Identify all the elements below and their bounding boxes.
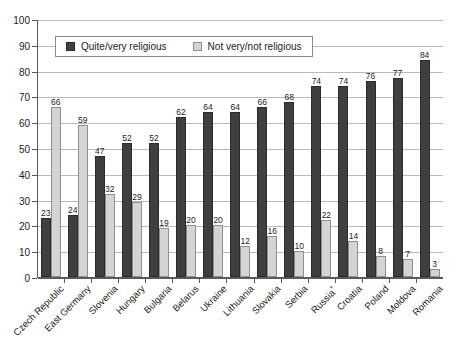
- y-axis-tick-label: 50: [0, 144, 30, 155]
- bar-value-label: 76: [366, 71, 375, 81]
- bar-value-label: 19: [159, 218, 168, 228]
- bar: 68: [284, 102, 294, 277]
- bar-group: 777: [390, 20, 417, 277]
- bar-value-label: 24: [68, 205, 77, 215]
- bar-value-label: 66: [258, 97, 267, 107]
- y-axis-tick-mark: [32, 201, 37, 202]
- bar: 22: [321, 220, 331, 277]
- bar-value-label: 64: [230, 102, 239, 112]
- chart-legend: Quite/very religious Not very/not religi…: [55, 36, 313, 57]
- y-axis-tick-label: 90: [0, 40, 30, 51]
- bar-value-label: 16: [268, 226, 277, 236]
- y-axis-tick-mark: [32, 123, 37, 124]
- bar-value-label: 66: [51, 97, 60, 107]
- x-axis-tick-mark: [416, 278, 417, 283]
- bar-value-label: 74: [312, 76, 321, 86]
- y-axis-tick-mark: [32, 97, 37, 98]
- gridline: [38, 278, 443, 279]
- bar-group: 6810: [282, 20, 309, 277]
- y-axis-tick-mark: [32, 46, 37, 47]
- x-axis-tick-mark: [308, 278, 309, 283]
- y-axis-tick-label: 10: [0, 247, 30, 258]
- y-axis-tick-label: 40: [0, 169, 30, 180]
- x-axis-category-label: Russia*: [306, 283, 338, 315]
- x-axis-tick-mark: [362, 278, 363, 283]
- y-axis-tick-mark: [32, 175, 37, 176]
- bar-group: 4732: [92, 20, 119, 277]
- bar: 20: [186, 225, 196, 277]
- x-axis-tick-mark: [145, 278, 146, 283]
- y-axis-tick-label: 0: [0, 273, 30, 284]
- bar: 47: [95, 156, 105, 277]
- bar: 66: [51, 107, 61, 277]
- bar-value-label: 59: [78, 115, 87, 125]
- x-axis-tick-mark: [335, 278, 336, 283]
- bar-group: 2459: [65, 20, 92, 277]
- bar-group: 768: [363, 20, 390, 277]
- bar-group: 6220: [173, 20, 200, 277]
- bar-value-label: 23: [41, 208, 50, 218]
- bar: 64: [230, 112, 240, 277]
- bar-value-label: 3: [432, 259, 437, 269]
- y-axis-tick-mark: [32, 278, 37, 279]
- bar-value-label: 47: [95, 146, 104, 156]
- bar-value-label: 64: [203, 102, 212, 112]
- y-axis-tick-mark: [32, 226, 37, 227]
- bar: 8: [376, 256, 386, 277]
- y-axis-tick-label: 70: [0, 92, 30, 103]
- bar-group: 7414: [336, 20, 363, 277]
- bar: 59: [78, 125, 88, 277]
- bar-value-label: 20: [186, 215, 195, 225]
- x-axis-category-label: Slovenia: [86, 283, 120, 317]
- bar: 62: [176, 117, 186, 277]
- bar: 32: [105, 194, 115, 277]
- bar: 7: [403, 259, 413, 277]
- y-axis-tick-label: 80: [0, 66, 30, 77]
- bar-value-label: 12: [240, 236, 249, 246]
- grouped-bar-chart: 2366245947325229521962206420641266166810…: [0, 0, 455, 361]
- bar-value-label: 10: [295, 241, 304, 251]
- x-axis-category-label: Bulgaria: [142, 283, 174, 315]
- legend-item-not-very-not-religious: Not very/not religious: [193, 41, 302, 52]
- bar: 74: [338, 86, 348, 277]
- bar: 52: [149, 143, 159, 277]
- bar: 20: [213, 225, 223, 277]
- dark-square-icon: [66, 42, 75, 51]
- bar-group: 5229: [119, 20, 146, 277]
- bar: 84: [420, 60, 430, 277]
- bar-value-label: 74: [339, 76, 348, 86]
- bar: 23: [41, 218, 51, 277]
- y-axis-tick-mark: [32, 149, 37, 150]
- x-axis-category-label: Serbia: [282, 283, 309, 310]
- bar: 29: [132, 202, 142, 277]
- y-axis-tick-mark: [32, 20, 37, 21]
- bar-value-label: 84: [420, 50, 429, 60]
- bar: 19: [159, 228, 169, 277]
- bar-value-label: 14: [349, 231, 358, 241]
- bar-value-label: 62: [176, 107, 185, 117]
- legend-item-quite-very-religious: Quite/very religious: [66, 41, 167, 52]
- x-axis-category-label: Hungary: [114, 283, 147, 316]
- x-axis-tick-mark: [64, 278, 65, 283]
- y-axis-tick-label: 100: [0, 15, 30, 26]
- bar-value-label: 68: [285, 92, 294, 102]
- bar: 76: [366, 81, 376, 277]
- x-axis-tick-mark: [389, 278, 390, 283]
- bar: 52: [122, 143, 132, 277]
- bar: 77: [393, 78, 403, 277]
- y-axis-tick-label: 30: [0, 195, 30, 206]
- x-axis-category-label: Croatia: [334, 283, 363, 312]
- x-axis-tick-mark: [118, 278, 119, 283]
- bar: 64: [203, 112, 213, 277]
- bar: 14: [348, 241, 358, 277]
- bar-value-label: 7: [405, 249, 410, 259]
- y-axis-tick-mark: [32, 252, 37, 253]
- light-square-icon: [193, 42, 202, 51]
- bar-group: 6412: [227, 20, 254, 277]
- x-axis-tick-mark: [281, 278, 282, 283]
- x-axis-tick-mark: [172, 278, 173, 283]
- bar-group: 6616: [255, 20, 282, 277]
- x-axis-tick-mark: [254, 278, 255, 283]
- bar-value-label: 77: [393, 68, 402, 78]
- bar-group: 5219: [146, 20, 173, 277]
